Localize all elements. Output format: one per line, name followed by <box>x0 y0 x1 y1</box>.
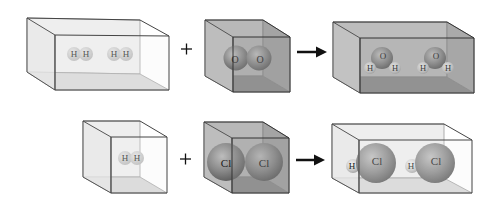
box-o2-reactant: O O <box>205 20 290 92</box>
box-h2-reactant-row2: H H <box>83 121 167 193</box>
svg-text:H: H <box>349 161 356 171</box>
box-h2-reactant-row1: H H H H <box>27 18 169 90</box>
box-h2o-product: O H H O H H <box>333 22 474 93</box>
box-hcl-product: H Cl H Cl <box>332 124 472 193</box>
reaction-arrow <box>296 155 325 166</box>
reaction-diagram: H H H H O O <box>0 0 498 206</box>
svg-text:Cl: Cl <box>221 157 231 169</box>
reaction-arrow <box>297 47 327 58</box>
plus-sign <box>180 154 191 165</box>
plus-sign <box>181 44 192 55</box>
box-cl2-reactant: Cl Cl <box>204 122 289 193</box>
